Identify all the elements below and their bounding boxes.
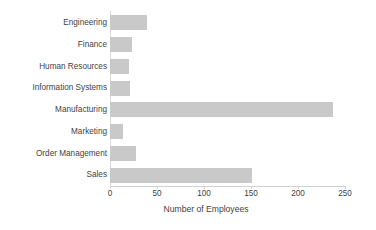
bar-row[interactable] bbox=[110, 34, 345, 56]
bar[interactable] bbox=[110, 146, 136, 161]
bar[interactable] bbox=[110, 168, 252, 183]
x-axis-tick-label: 0 bbox=[108, 189, 113, 198]
x-axis-tick-label: 150 bbox=[244, 189, 258, 198]
y-axis-tick-label: Engineering bbox=[3, 12, 107, 34]
plot-area bbox=[110, 12, 345, 186]
y-axis-tick-label: Human Resources bbox=[3, 56, 107, 78]
bar[interactable] bbox=[110, 37, 132, 52]
y-axis-tick-label: Sales bbox=[3, 164, 107, 186]
y-axis-tick-label: Manufacturing bbox=[3, 99, 107, 121]
bar-row[interactable] bbox=[110, 12, 345, 34]
x-axis-tick-label: 200 bbox=[291, 189, 305, 198]
bar[interactable] bbox=[110, 102, 333, 117]
x-axis-title: Number of Employees bbox=[0, 204, 376, 214]
bar[interactable] bbox=[110, 81, 130, 96]
x-axis-tick-label: 50 bbox=[152, 189, 161, 198]
bar-chart-figure: EngineeringFinanceHuman ResourcesInforma… bbox=[0, 0, 376, 230]
bar-row[interactable] bbox=[110, 77, 345, 99]
x-axis-tick-label: 100 bbox=[197, 189, 211, 198]
bar-row[interactable] bbox=[110, 143, 345, 165]
y-axis-tick-label: Finance bbox=[3, 34, 107, 56]
bar[interactable] bbox=[110, 124, 123, 139]
y-axis-tick-label: Order Management bbox=[3, 143, 107, 165]
x-axis-title-text: Number of Employees bbox=[163, 204, 248, 214]
y-axis-tick-label: Information Systems bbox=[3, 77, 107, 99]
y-axis-tick-labels: EngineeringFinanceHuman ResourcesInforma… bbox=[0, 12, 107, 186]
bar-row[interactable] bbox=[110, 121, 345, 143]
y-axis-tick-label: Marketing bbox=[3, 121, 107, 143]
bar[interactable] bbox=[110, 59, 129, 74]
x-axis-tick-label: 250 bbox=[338, 189, 352, 198]
bar[interactable] bbox=[110, 15, 147, 30]
x-axis-line bbox=[110, 186, 346, 187]
bar-row[interactable] bbox=[110, 56, 345, 78]
bar-row[interactable] bbox=[110, 164, 345, 186]
bar-row[interactable] bbox=[110, 99, 345, 121]
